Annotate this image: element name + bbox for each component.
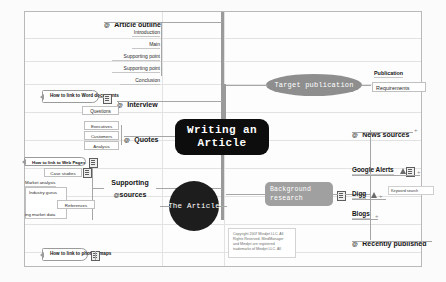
topic-conclusion[interactable]: Conclusion	[120, 77, 160, 85]
topic-references[interactable]: References	[57, 200, 95, 209]
topic-customers[interactable]: Customers	[84, 131, 119, 140]
topic-supporting-point-1[interactable]: Supporting point	[112, 53, 160, 61]
note-icon[interactable]	[337, 191, 346, 201]
topic-supporting-point-2[interactable]: Supporting point	[112, 65, 160, 73]
node-digg[interactable]: Digg	[352, 190, 366, 199]
connector	[352, 241, 432, 242]
node-label: Quotes	[134, 136, 158, 143]
connector	[352, 199, 386, 200]
grid-line	[25, 224, 421, 225]
connector	[99, 97, 104, 98]
connector	[104, 22, 186, 23]
note-icon[interactable]	[89, 158, 98, 168]
node-supporting-sources[interactable]: Supporting @sources	[104, 178, 156, 200]
topic-publication[interactable]: Publication	[374, 70, 403, 78]
topic-introduction[interactable]: Introduction	[132, 29, 160, 37]
topic-requirements[interactable]: Requirements	[372, 82, 426, 92]
connector	[352, 175, 420, 176]
connector	[160, 206, 170, 207]
topic-case-studies[interactable]: Case studies	[44, 168, 82, 177]
node-label: Interview	[127, 101, 157, 108]
topic-questions[interactable]: Questions	[82, 106, 119, 115]
node-label-line2: sources	[120, 191, 147, 198]
connector	[92, 160, 93, 220]
callout-link-web-pages[interactable]: How to link to Web Pages	[24, 157, 86, 166]
node-blogs[interactable]: Blogs	[352, 210, 370, 219]
plus-icon[interactable]: +	[414, 128, 418, 133]
connector	[226, 194, 266, 195]
node-label-line1: Supporting	[104, 178, 156, 187]
grid-line	[162, 12, 163, 266]
connector	[118, 101, 119, 109]
node-target-publication[interactable]: Target publication	[266, 74, 362, 96]
connector	[121, 125, 122, 145]
note-icon[interactable]	[103, 94, 112, 104]
tag-keyword-search[interactable]: Keyword search	[388, 186, 434, 195]
connector	[352, 132, 413, 133]
copyright-line4: trademarks of Mindjet LLC. All	[233, 247, 291, 252]
connector	[333, 194, 338, 195]
central-topic[interactable]: Writing an Article	[175, 119, 269, 155]
topic-market-analysis[interactable]: Market analysis	[25, 180, 56, 187]
person-icon[interactable]	[371, 192, 377, 198]
topic-market-data[interactable]: ing market data	[25, 212, 55, 219]
connector	[92, 188, 104, 189]
node-quotes[interactable]: @ Quotes	[124, 128, 158, 146]
at-icon: @	[124, 137, 130, 143]
node-background-research[interactable]: Background research	[265, 182, 333, 206]
central-line2: Article	[187, 137, 257, 150]
mindmap-canvas[interactable]: @ Article outline Introduction Main Supp…	[0, 0, 446, 282]
callout-link-photos-maps[interactable]: How to link to photos, maps	[42, 248, 88, 261]
topic-main[interactable]: Main	[132, 41, 160, 49]
connector	[117, 101, 222, 102]
topic-analysis[interactable]: Analysis	[84, 141, 119, 150]
node-google-alerts[interactable]: Google Alerts	[352, 166, 394, 175]
connector	[161, 22, 162, 76]
connector	[352, 219, 378, 220]
node-label-line2: research	[270, 194, 328, 203]
node-interview[interactable]: @ Interview	[117, 93, 158, 111]
node-the-article[interactable]: The Article	[169, 181, 219, 231]
connector	[95, 251, 96, 260]
connector	[226, 85, 268, 86]
note-icon[interactable]	[83, 168, 92, 178]
copyright-note: Copyright 2007 Mindjet LLC. All Rights R…	[228, 228, 296, 258]
node-label-line1: Background	[270, 185, 328, 194]
connector	[370, 130, 371, 240]
connector	[219, 206, 227, 207]
callout-link-word-documents[interactable]: How to link to Word documents	[42, 90, 99, 103]
central-line1: Writing an	[187, 124, 257, 137]
topic-executives[interactable]: Executives	[84, 121, 119, 130]
connector	[186, 22, 222, 23]
connector	[362, 85, 371, 86]
